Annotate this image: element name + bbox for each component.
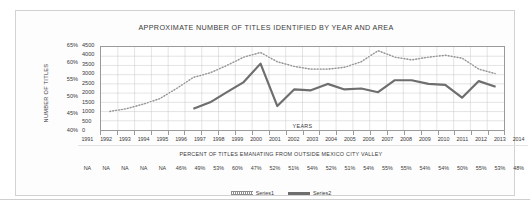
x-axis-year-label: 2001 <box>266 134 285 144</box>
axis-tick-label: 500 <box>82 119 91 125</box>
x-axis-year-label: 1994 <box>134 134 153 144</box>
series2-line <box>193 64 495 109</box>
percent-caption: PERCENT OF TITLES EMANATING FROM OUTSIDE… <box>31 151 530 157</box>
percent-value: 55% <box>472 163 491 173</box>
legend-swatch-series2-icon <box>288 192 310 195</box>
chart-figure: APPROXIMATE NUMBER OF TITLES IDENTIFIED … <box>0 0 530 209</box>
percent-value: 53% <box>209 163 228 173</box>
percent-value: 49% <box>191 163 210 173</box>
legend-item-series1[interactable]: Series1 <box>231 190 274 196</box>
chart-frame: APPROXIMATE NUMBER OF TITLES IDENTIFIED … <box>15 10 515 196</box>
percent-value: NA <box>153 163 172 173</box>
percent-value: NA <box>116 163 135 173</box>
legend-label-series1: Series1 <box>256 190 274 196</box>
x-axis-year-label: 2003 <box>303 134 322 144</box>
x-axis-year-label: 1998 <box>209 134 228 144</box>
x-axis-year-label: 2004 <box>322 134 341 144</box>
chart-title: APPROXIMATE NUMBER OF TITLES IDENTIFIED … <box>16 23 516 32</box>
x-axis-year-label: 2005 <box>341 134 360 144</box>
axis-tick-label: 45% <box>67 111 78 117</box>
x-axis-year-label: 2006 <box>359 134 378 144</box>
percent-value: 48% <box>509 163 528 173</box>
axis-tick-label: 3500 <box>82 62 94 68</box>
percent-value: 52% <box>266 163 285 173</box>
percent-value: 60% <box>228 163 247 173</box>
percent-value: 53% <box>491 163 510 173</box>
percent-value: NA <box>97 163 116 173</box>
x-axis-year-label: 2009 <box>416 134 435 144</box>
percent-value: 55% <box>397 163 416 173</box>
axis-tick-label: 50% <box>67 94 78 100</box>
x-axis-year-label: 1997 <box>191 134 210 144</box>
gridlines <box>101 47 504 130</box>
chart-legend: Series1 Series2 <box>31 187 530 199</box>
axis-tick-label: 55% <box>67 77 78 83</box>
y-axis-title-label: NUMBER OF TITLES <box>43 64 49 123</box>
page-rule <box>0 199 530 200</box>
percent-value: 50% <box>453 163 472 173</box>
x-axis-title: YEARS <box>100 123 505 129</box>
percent-value: 55% <box>378 163 397 173</box>
legend-label-series2: Series2 <box>313 190 331 196</box>
percent-value: NA <box>78 163 97 173</box>
percent-value: 51% <box>284 163 303 173</box>
x-axis-year-label: 1992 <box>97 134 116 144</box>
percent-value: 46% <box>172 163 191 173</box>
axis-tick-label: 4000 <box>82 52 94 58</box>
percent-value: NA <box>134 163 153 173</box>
plot-area <box>100 46 505 131</box>
percent-value: 54% <box>416 163 435 173</box>
percent-values-row: NANANANANA46%49%53%60%47%52%51%54%52%51%… <box>78 163 528 173</box>
x-axis-year-label: 1995 <box>153 134 172 144</box>
x-axis-year-label: 2012 <box>472 134 491 144</box>
percent-value: 47% <box>247 163 266 173</box>
x-axis-year-label: 2007 <box>378 134 397 144</box>
x-axis-year-label: 2000 <box>247 134 266 144</box>
x-axis-year-label: 2002 <box>284 134 303 144</box>
x-axis-year-label: 2013 <box>491 134 510 144</box>
x-axis-year-label: 2014 <box>509 134 528 144</box>
axis-tick-label: 2500 <box>82 81 94 87</box>
percent-value: 52% <box>322 163 341 173</box>
x-axis-year-labels: 1991199219931994199519961997199819992000… <box>78 134 528 144</box>
x-axis-year-label: 2008 <box>397 134 416 144</box>
x-axis-year-label: 2010 <box>434 134 453 144</box>
y-axis-title: NUMBER OF TITLES <box>40 47 52 139</box>
percent-value: 54% <box>434 163 453 173</box>
axis-tick-label: 4500 <box>82 43 94 49</box>
legend-item-series2[interactable]: Series2 <box>288 190 331 196</box>
axis-tick-label: 60% <box>67 60 78 66</box>
table-divider <box>78 145 528 146</box>
x-axis-year-label: 1991 <box>78 134 97 144</box>
axis-tick-label: 2000 <box>82 90 94 96</box>
x-axis-year-label: 2011 <box>453 134 472 144</box>
x-axis-year-label: 1999 <box>228 134 247 144</box>
percent-value: 54% <box>303 163 322 173</box>
x-axis-year-label: 1996 <box>172 134 191 144</box>
axis-tick-label: 65% <box>67 43 78 49</box>
percent-value: 54% <box>359 163 378 173</box>
x-axis-year-label: 1993 <box>116 134 135 144</box>
axis-tick-label: 1500 <box>82 100 94 106</box>
axis-tick-label: 1000 <box>82 109 94 115</box>
legend-swatch-series1-icon <box>231 191 253 195</box>
percent-value: 51% <box>341 163 360 173</box>
plot-svg <box>101 47 504 130</box>
axis-tick-label: 3000 <box>82 71 94 77</box>
axis-tick-label: 0 <box>82 128 85 134</box>
axis-tick-label: 40% <box>67 128 78 134</box>
